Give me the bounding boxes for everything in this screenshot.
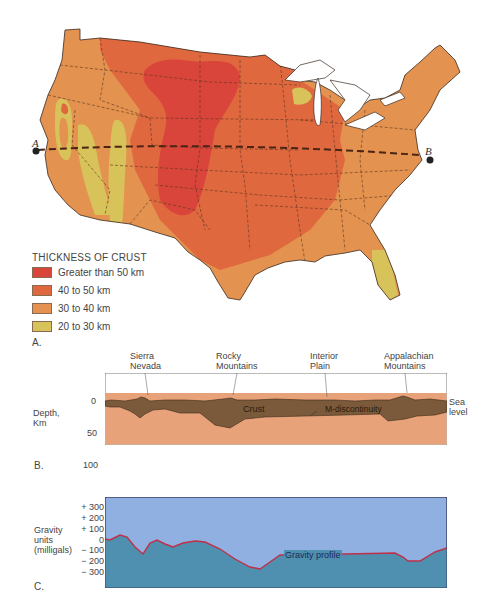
legend-label: 30 to 40 km	[58, 303, 110, 314]
depth-tick-0: 0	[91, 396, 96, 406]
legend-swatch	[32, 267, 52, 278]
gravity-profile-label: Gravity profile	[284, 550, 342, 560]
gravity-tick-0: 0	[78, 535, 104, 545]
legend-label: Greater than 50 km	[58, 267, 144, 278]
depth-tick-100: 100	[83, 460, 98, 470]
gravity-tick-minus-200: − 200	[78, 556, 104, 566]
gravity-tick-minus-100: − 100	[78, 545, 104, 555]
gravity-tick-plus-100: + 100	[78, 524, 104, 534]
crust-cross-section	[105, 373, 447, 445]
panel-b-letter: B.	[34, 460, 43, 471]
panel-c-letter: C.	[34, 581, 44, 592]
legend-swatch	[32, 321, 52, 332]
gravity-axis-label: Gravity units (milligals)	[34, 525, 72, 555]
point-a-label: A	[32, 137, 39, 149]
legend: THICKNESS OF CRUST Greater than 50 km 40…	[32, 252, 147, 332]
legend-swatch	[32, 303, 52, 314]
legend-item-30-to-40: 30 to 40 km	[32, 303, 147, 314]
legend-label: 40 to 50 km	[58, 285, 110, 296]
depth-axis-label: Depth,Km	[33, 408, 60, 428]
crust-label: Crust	[243, 404, 265, 414]
legend-swatch	[32, 285, 52, 296]
point-b-marker	[427, 157, 434, 164]
panel-a-letter: A.	[32, 337, 41, 348]
depth-tick-50: 50	[87, 428, 97, 438]
legend-title: THICKNESS OF CRUST	[32, 252, 147, 263]
point-b-label: B	[425, 145, 432, 157]
gravity-profile-chart	[105, 497, 447, 588]
gravity-tick-minus-300: − 300	[78, 567, 104, 577]
gravity-tick-plus-200: + 200	[78, 513, 104, 523]
legend-item-greater-than-50: Greater than 50 km	[32, 267, 147, 278]
feature-label-interior-plain: InteriorPlain	[310, 351, 338, 371]
m-discontinuity-label: M-discontinuity	[325, 404, 382, 414]
feature-label-sierra-nevada: SierraNevada	[130, 351, 161, 371]
legend-label: 20 to 30 km	[58, 321, 110, 332]
feature-label-rocky-mountains: RockyMountains	[216, 351, 258, 371]
feature-label-appalachian-mountains: AppalachianMountains	[384, 351, 434, 371]
legend-item-40-to-50: 40 to 50 km	[32, 285, 147, 296]
sea-level-label: Sealevel	[449, 397, 468, 417]
legend-item-20-to-30: 20 to 30 km	[32, 321, 147, 332]
gravity-tick-plus-300: + 300	[78, 502, 104, 512]
